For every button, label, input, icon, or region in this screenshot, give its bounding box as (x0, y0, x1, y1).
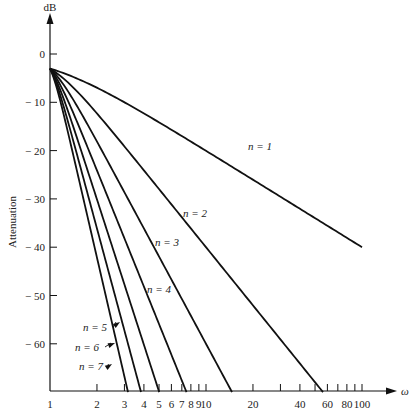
x-tick-label: 40 (294, 398, 306, 410)
y-axis: dB 0− 10− 20− 30− 40− 50− 60 Attenuation (6, 1, 57, 391)
curve-label-n7: n = 7 (79, 360, 103, 372)
x-tick-label: 3 (122, 398, 128, 410)
curve-label-n2: n = 2 (183, 207, 207, 219)
x-tick-label: 5 (156, 398, 162, 410)
curve-n1 (50, 69, 362, 248)
curve-label-n3: n = 3 (155, 236, 179, 248)
x-axis-title: ω (401, 385, 409, 397)
y-axis-arrow-icon (47, 13, 54, 24)
x-tick-label: 10 (201, 398, 213, 410)
curve-label-n6: n = 6 (75, 341, 99, 353)
x-tick-label: 7 (179, 398, 185, 410)
x-tick-label: 6 (169, 398, 175, 410)
x-tick-label: 1 (47, 398, 53, 410)
y-tick-label: − 10 (25, 96, 45, 108)
y-tick-label: − 50 (25, 290, 45, 302)
x-axis-arrow-icon (386, 388, 397, 395)
y-axis-title: Attenuation (6, 196, 18, 248)
curve-label-n1: n = 1 (248, 140, 272, 152)
y-tick-label: 0 (40, 48, 46, 60)
y-tick-label: − 40 (25, 241, 45, 253)
x-tick-label: 20 (247, 398, 259, 410)
x-axis: ω 1234567891020406080100 (47, 384, 409, 410)
curve-label-n5: n = 5 (83, 321, 107, 333)
arrowhead-icon (108, 343, 115, 348)
x-tick-label: 100 (354, 398, 371, 410)
attenuation-chart: dB 0− 10− 20− 30− 40− 50− 60 Attenuation… (0, 0, 418, 418)
y-tick-label: − 20 (25, 145, 45, 157)
x-tick-label: 4 (141, 398, 147, 410)
y-tick-label: − 30 (25, 193, 45, 205)
curve-label-n4: n = 4 (147, 283, 171, 295)
x-tick-label: 8 (188, 398, 194, 410)
x-tick-label: 2 (94, 398, 100, 410)
y-tick-label: − 60 (25, 338, 45, 350)
x-tick-label: 80 (341, 398, 353, 410)
y-unit-label: dB (44, 1, 57, 13)
x-tick-label: 60 (322, 398, 334, 410)
